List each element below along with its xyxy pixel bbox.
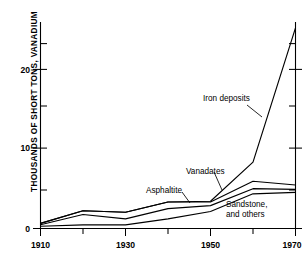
x-tick-marks <box>41 229 296 237</box>
y-tick-label-0: 0 <box>25 224 30 234</box>
y-tick-label-20: 20 <box>20 65 30 75</box>
leader-iron-deposits <box>247 105 262 117</box>
annotation-leaders <box>182 105 262 203</box>
x-tick-label-1950: 1950 <box>201 240 220 250</box>
annotation-sandstone-line2: and others <box>226 210 265 219</box>
x-tick-label-1970: 1970 <box>282 240 301 250</box>
data-series-group <box>41 28 296 226</box>
annotation-vanadates: Vanadates <box>186 167 225 176</box>
annotation-labels: Iron deposits Vanadates Asphaltite Sands… <box>146 94 267 219</box>
x-tick-label-1910: 1910 <box>31 240 50 250</box>
chart-figure: THOUSANDS OF SHORT TONS, VANADIUM <box>0 0 308 260</box>
y-tick-label-10: 10 <box>20 143 30 153</box>
axis-group <box>41 22 296 229</box>
annotation-asphaltite: Asphaltite <box>146 186 182 195</box>
y-tick-labels: 20 10 0 <box>20 65 30 234</box>
annotation-sandstone-line1: Sandstone, <box>226 200 267 209</box>
annotation-iron-deposits: Iron deposits <box>203 94 250 103</box>
x-tick-label-1930: 1930 <box>116 240 135 250</box>
x-tick-labels: 1910 1930 1950 1970 <box>31 240 302 250</box>
chart-plot-area: 20 10 0 1910 1930 1950 1970 Iron deposit… <box>0 0 308 260</box>
